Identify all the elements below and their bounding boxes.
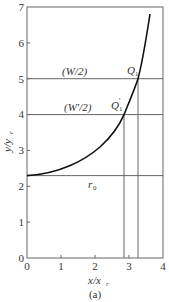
- svg-text:r: r: [106, 280, 109, 288]
- caption: (a): [89, 288, 102, 301]
- y-tick-5: 5: [19, 73, 25, 85]
- y-tick-7: 7: [19, 1, 25, 13]
- label-q1prime: Q 1 ': [111, 97, 123, 113]
- svg-text:x/x: x/x: [87, 274, 101, 286]
- chart: 0 1 2 3 4 5 6 7 0 1 2 3 4 (W/2) (W'/2) r…: [0, 0, 169, 302]
- y-axis-label: y/y r: [1, 131, 15, 153]
- label-w-half: (W/2): [62, 65, 87, 78]
- curve-series: [27, 14, 150, 176]
- svg-text:1: 1: [135, 70, 139, 78]
- plot-frame: [27, 7, 163, 258]
- x-tick-2: 2: [92, 260, 98, 272]
- y-tick-labels: 0 1 2 3 4 5 6 7: [19, 1, 25, 264]
- y-tick-1: 1: [19, 216, 25, 228]
- svg-text:r: r: [7, 131, 15, 134]
- x-tick-1: 1: [58, 260, 64, 272]
- y-tick-6: 6: [19, 37, 25, 49]
- svg-text:1: 1: [119, 105, 123, 113]
- label-q1: Q 1: [127, 64, 139, 78]
- svg-text:Q: Q: [111, 99, 119, 111]
- y-tick-3: 3: [19, 144, 25, 156]
- x-tick-0: 0: [24, 260, 30, 272]
- svg-text:0: 0: [93, 184, 97, 192]
- x-tick-labels: 0 1 2 3 4: [24, 260, 166, 272]
- svg-text:y/y: y/y: [1, 139, 13, 153]
- y-tick-2: 2: [19, 180, 25, 192]
- y-tick-4: 4: [19, 108, 25, 120]
- svg-text:Q: Q: [127, 64, 135, 76]
- x-tick-4: 4: [160, 260, 166, 272]
- x-axis-label: x/x r: [87, 274, 109, 288]
- label-wprime-half: (W'/2): [64, 101, 92, 114]
- label-r0: r 0: [88, 178, 97, 192]
- x-tick-3: 3: [126, 260, 132, 272]
